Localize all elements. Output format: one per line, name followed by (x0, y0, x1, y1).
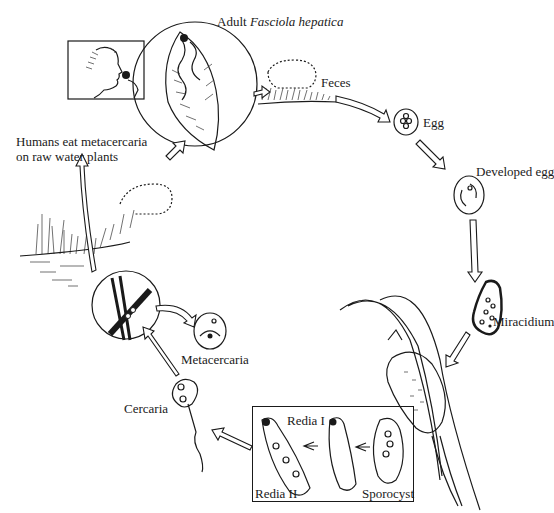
adult-fluke-icon (133, 22, 257, 150)
humans-label-line1: Humans eat metacercaria (16, 134, 147, 149)
human-profile-eating-icon (68, 41, 144, 99)
arrow-humans-to-adult (166, 141, 185, 160)
arrow-cercaria-to-plants (143, 327, 179, 376)
metacercaria-icon (194, 313, 226, 349)
miracidium-label: Miracidium (493, 314, 554, 329)
developed-egg-icon (454, 176, 484, 214)
redia-2-label: Redia II (255, 486, 297, 501)
arrow-plants-to-humans (76, 154, 96, 272)
humans-label-line2: on raw water plants (16, 149, 147, 164)
metacercaria-label: Metacercaria (181, 352, 249, 367)
egg-icon (394, 109, 418, 135)
water-plants-icon (20, 184, 172, 340)
species-name: Fasciola hepatica (250, 14, 344, 29)
arrow-redia-to-cercaria (212, 428, 252, 450)
arrow-egg-to-developed (416, 140, 445, 169)
sporocyst-label: Sporocyst (362, 486, 414, 501)
developed-egg-label: Developed egg (476, 164, 554, 179)
adult-label-prefix: Adult (217, 14, 247, 29)
feces-label: Feces (321, 75, 351, 90)
cercaria-icon (172, 379, 202, 472)
arrow-feces-to-egg (336, 96, 390, 122)
humans-label: Humans eat metacercaria on raw water pla… (16, 134, 147, 164)
arrow-plants-to-metacercaria (156, 305, 196, 327)
arrow-miracidium-to-snail (446, 332, 470, 367)
cercaria-label: Cercaria (124, 401, 168, 416)
egg-label: Egg (423, 115, 444, 130)
arrow-developed-to-miracidium (468, 220, 482, 282)
adult-fluke-label: Adult Fasciola hepatica (217, 14, 343, 29)
redia-1-label: Redia I (287, 413, 325, 428)
